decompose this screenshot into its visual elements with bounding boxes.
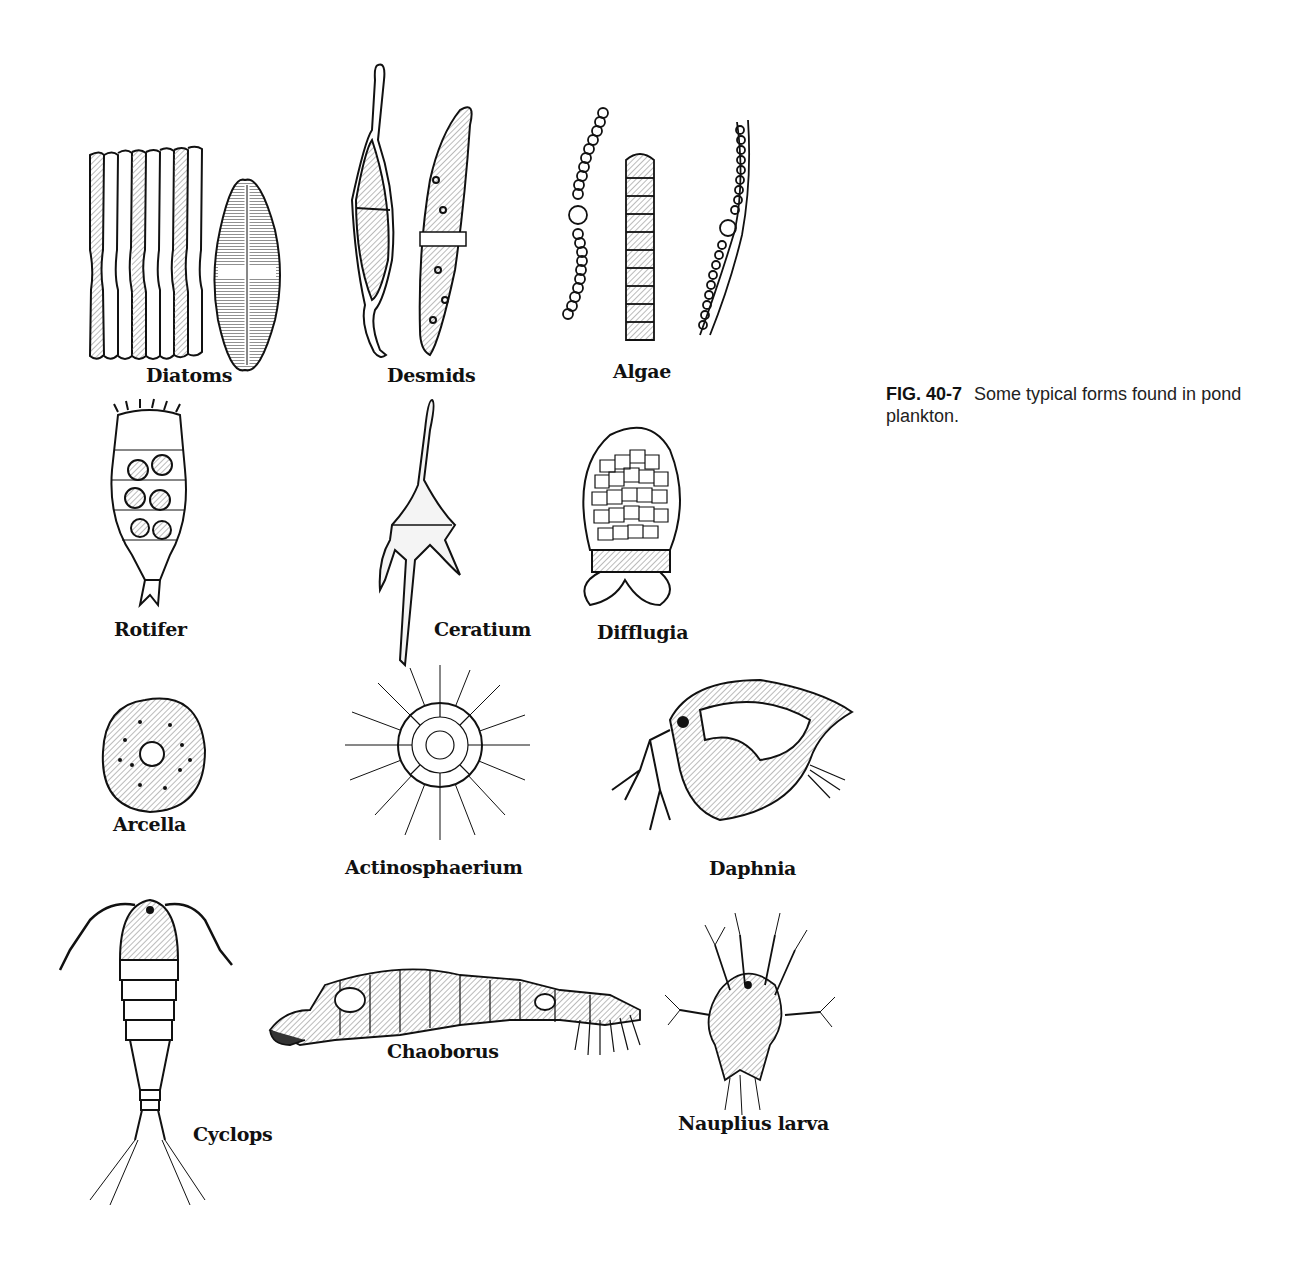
cyclops-drawing <box>60 900 232 1205</box>
arcella-drawing <box>103 699 205 812</box>
diatoms-drawing <box>90 147 280 371</box>
label-cyclops: Cyclops <box>193 1123 273 1145</box>
figure-caption: FIG. 40-7Some typical forms found in pon… <box>886 383 1286 427</box>
label-diatoms: Diatoms <box>146 364 232 386</box>
label-nauplius-larva: Nauplius larva <box>678 1112 829 1134</box>
difflugia-drawing <box>583 428 680 605</box>
nauplius-drawing <box>665 913 835 1115</box>
actinosphaerium-drawing <box>345 665 530 840</box>
desmids-drawing <box>352 65 472 357</box>
label-actinosphaerium: Actinosphaerium <box>345 856 523 878</box>
label-desmids: Desmids <box>387 364 475 386</box>
figure-number: FIG. 40-7 <box>886 384 962 404</box>
label-rotifer: Rotifer <box>114 618 187 640</box>
algae-drawing <box>563 108 749 340</box>
label-algae: Algae <box>613 360 671 382</box>
label-arcella: Arcella <box>113 813 186 835</box>
label-difflugia: Difflugia <box>597 621 688 643</box>
plankton-figure: Diatoms Desmids Algae Rotifer Ceratium D… <box>0 0 1309 1273</box>
rotifer-drawing <box>111 399 186 605</box>
label-ceratium: Ceratium <box>434 618 531 640</box>
daphnia-drawing <box>612 680 852 830</box>
label-chaoborus: Chaoborus <box>387 1040 499 1062</box>
label-daphnia: Daphnia <box>709 857 796 879</box>
